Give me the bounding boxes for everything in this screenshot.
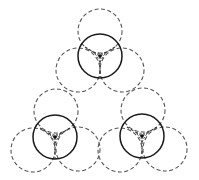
center-dot (53, 135, 57, 139)
dashed-circle (143, 127, 187, 171)
center-dot (98, 54, 102, 58)
dashed-connector-line (40, 128, 55, 137)
dashed-circle (121, 88, 165, 132)
cluster-top (56, 9, 144, 92)
dashed-circle (78, 9, 122, 53)
circle-cluster-diagram (0, 0, 199, 180)
cluster-bottom-right (98, 88, 187, 172)
clusters-group (11, 9, 187, 172)
cluster-bottom-left (11, 89, 100, 172)
dashed-connector-line (127, 127, 142, 136)
dashed-circle (34, 89, 78, 133)
center-dot (140, 134, 144, 138)
dashed-circle (56, 127, 100, 171)
